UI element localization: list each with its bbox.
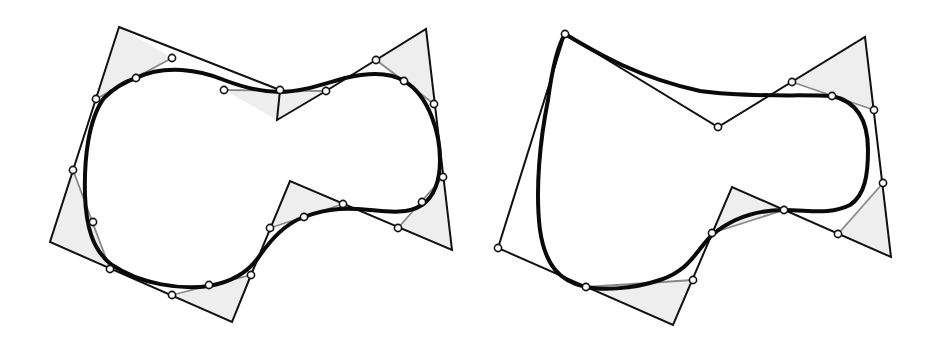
diagram-canvas [0, 0, 938, 352]
control-point [561, 30, 568, 37]
control-point [69, 166, 76, 173]
control-point [247, 271, 254, 278]
control-point [400, 77, 407, 84]
control-point [582, 283, 589, 290]
control-point [439, 173, 446, 180]
control-point [828, 92, 835, 99]
control-point [372, 56, 379, 63]
control-point [220, 86, 227, 93]
control-point [300, 213, 307, 220]
control-point [879, 179, 886, 186]
control-point [834, 230, 841, 237]
control-point [106, 265, 113, 272]
control-point [276, 86, 283, 93]
control-point [430, 100, 437, 107]
corner-triangle [224, 90, 326, 120]
control-point [168, 291, 175, 298]
control-point [788, 78, 795, 85]
control-point [132, 74, 139, 81]
control-point [494, 244, 501, 251]
control-point [92, 95, 99, 102]
control-point [89, 218, 96, 225]
left-closed-spline [50, 27, 452, 322]
control-point [714, 123, 721, 130]
control-point [418, 198, 425, 205]
control-point [339, 200, 346, 207]
control-point [689, 276, 696, 283]
control-point [394, 224, 401, 231]
control-point [168, 54, 175, 61]
control-point [205, 281, 212, 288]
control-point [780, 206, 787, 213]
control-point [266, 224, 273, 231]
right-spline-with-corner [494, 30, 891, 325]
control-point [870, 106, 877, 113]
control-point [708, 229, 715, 236]
control-point [322, 87, 329, 94]
